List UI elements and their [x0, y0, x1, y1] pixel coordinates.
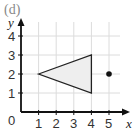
x-tick-label: 2	[53, 116, 60, 131]
y-tick-label: 3	[8, 48, 15, 63]
coordinate-plot: (d) y x 0 1 2 3 4 5 1 2 3 4	[0, 0, 136, 138]
y-axis-arrow-icon	[18, 18, 25, 26]
triangle-shape	[39, 55, 92, 93]
x-tick-label: 3	[70, 116, 77, 131]
x-axis-arrow-icon	[122, 109, 130, 116]
x-tick-label: 1	[35, 116, 42, 131]
y-axis-label: y	[6, 15, 14, 30]
y-tick-label: 2	[8, 67, 15, 82]
y-tick-label: 4	[8, 29, 15, 44]
y-tick-label: 1	[8, 86, 15, 101]
origin-label: 0	[8, 113, 15, 128]
data-point	[106, 71, 112, 77]
x-axis-label: x	[125, 116, 132, 131]
x-tick-label: 5	[105, 116, 112, 131]
x-tick-label: 4	[88, 116, 95, 131]
